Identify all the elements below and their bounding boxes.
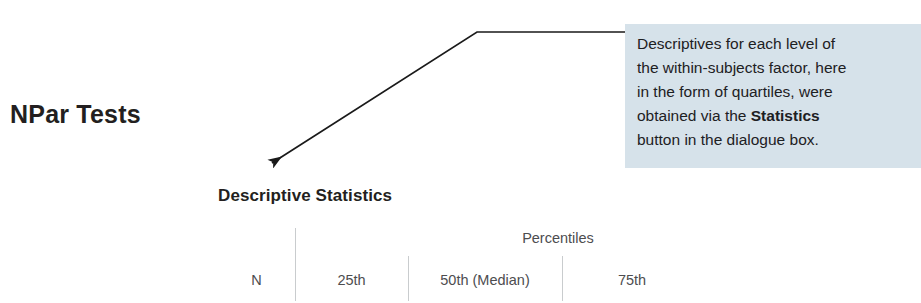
table-column-header-n: N: [218, 272, 295, 288]
callout-line-2: the within-subjects factor, here: [637, 59, 846, 76]
annotation-callout-box: Descriptives for each level of the withi…: [625, 24, 921, 168]
table-title-descriptive-statistics: Descriptive Statistics: [218, 186, 921, 206]
page-canvas: NPar Tests Descriptives for each level o…: [0, 0, 921, 303]
table-column-header-25th: 25th: [295, 272, 408, 288]
page-title-npar-tests: NPar Tests: [10, 100, 141, 129]
annotation-callout-text: Descriptives for each level of the withi…: [637, 32, 911, 152]
callout-line-4-prefix: obtained via the: [637, 107, 751, 124]
callout-statistics-term: Statistics: [751, 107, 820, 124]
table-divider-after-n-column: [295, 228, 296, 301]
leader-arrow-path: [272, 32, 625, 163]
callout-line-5: button in the dialogue box.: [637, 131, 819, 148]
spss-output-table: Descriptive Statistics Percentiles N 25t…: [218, 186, 921, 301]
table-group-header-percentiles: Percentiles: [408, 230, 708, 246]
table-column-header-75th: 75th: [562, 272, 702, 288]
callout-line-3: in the form of quartiles, were: [637, 83, 833, 100]
table-column-header-50th-median: 50th (Median): [408, 272, 562, 288]
callout-line-1: Descriptives for each level of: [637, 35, 835, 52]
table-header-row: Percentiles N 25th 50th (Median) 75th: [218, 228, 921, 301]
